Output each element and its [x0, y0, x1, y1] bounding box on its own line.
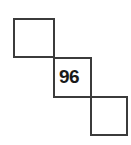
diagram-canvas: 96 [0, 0, 131, 145]
square-bottom-right [90, 96, 128, 136]
square-middle-label: 96 [59, 67, 79, 86]
square-top-left [13, 18, 55, 58]
